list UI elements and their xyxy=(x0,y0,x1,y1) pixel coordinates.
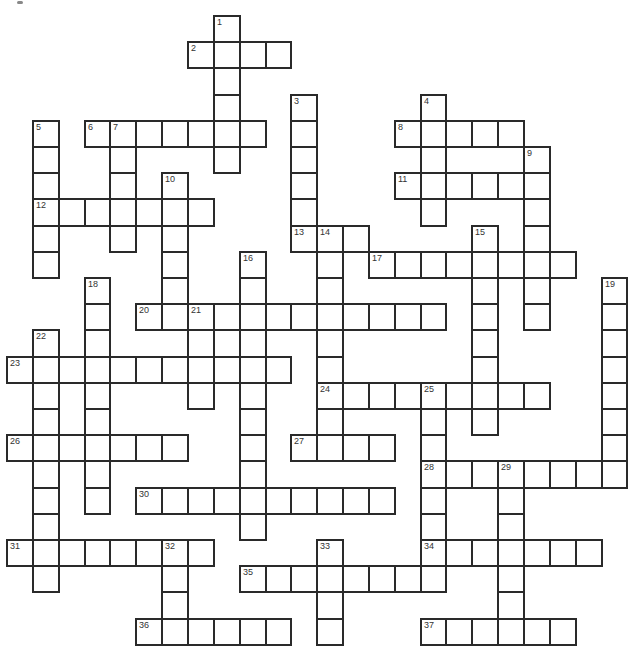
crossword-cell[interactable] xyxy=(523,172,551,200)
crossword-cell[interactable]: 23 xyxy=(6,356,34,384)
crossword-cell[interactable] xyxy=(601,329,628,358)
crossword-cell[interactable] xyxy=(342,225,370,253)
crossword-cell[interactable] xyxy=(239,329,267,358)
crossword-cell[interactable] xyxy=(445,120,473,148)
crossword-cell[interactable] xyxy=(497,251,525,279)
crossword-cell[interactable] xyxy=(213,94,241,122)
crossword-cell[interactable] xyxy=(213,487,241,515)
crossword-cell[interactable] xyxy=(497,382,525,410)
crossword-cell[interactable] xyxy=(471,120,499,148)
crossword-cell[interactable] xyxy=(187,618,215,646)
crossword-cell[interactable] xyxy=(471,329,499,358)
crossword-cell[interactable] xyxy=(265,356,292,384)
crossword-cell[interactable]: 5 xyxy=(32,120,60,148)
crossword-cell[interactable] xyxy=(523,277,551,305)
crossword-cell[interactable] xyxy=(601,303,628,331)
crossword-cell[interactable] xyxy=(32,172,60,200)
crossword-cell[interactable]: 17 xyxy=(368,251,396,279)
crossword-cell[interactable] xyxy=(213,41,241,69)
crossword-cell[interactable] xyxy=(290,198,318,227)
crossword-cell[interactable] xyxy=(84,460,111,489)
crossword-cell[interactable] xyxy=(471,251,499,279)
crossword-cell[interactable] xyxy=(265,565,292,593)
crossword-cell[interactable] xyxy=(420,565,447,593)
crossword-cell[interactable]: 22 xyxy=(32,329,60,358)
crossword-cell[interactable] xyxy=(135,539,163,567)
crossword-cell[interactable] xyxy=(549,539,577,567)
crossword-cell[interactable] xyxy=(84,408,111,436)
crossword-cell[interactable] xyxy=(523,618,551,646)
crossword-cell[interactable] xyxy=(445,251,473,279)
crossword-cell[interactable] xyxy=(523,382,551,410)
crossword-cell[interactable] xyxy=(135,198,163,227)
crossword-cell[interactable] xyxy=(109,356,137,384)
crossword-cell[interactable] xyxy=(523,198,551,227)
crossword-cell[interactable]: 26 xyxy=(6,434,34,462)
crossword-cell[interactable] xyxy=(342,565,370,593)
crossword-cell[interactable] xyxy=(368,565,396,593)
crossword-cell[interactable] xyxy=(32,408,60,436)
crossword-cell[interactable] xyxy=(420,408,447,436)
crossword-cell[interactable] xyxy=(109,225,137,253)
crossword-cell[interactable] xyxy=(420,172,447,200)
crossword-cell[interactable] xyxy=(187,382,215,410)
crossword-cell[interactable]: 16 xyxy=(239,251,267,279)
crossword-cell[interactable] xyxy=(135,120,163,148)
crossword-cell[interactable] xyxy=(394,251,422,279)
crossword-cell[interactable] xyxy=(32,356,60,384)
crossword-cell[interactable] xyxy=(84,303,111,331)
crossword-cell[interactable] xyxy=(394,565,422,593)
crossword-cell[interactable] xyxy=(265,487,292,515)
crossword-cell[interactable] xyxy=(161,225,189,253)
crossword-cell[interactable] xyxy=(239,460,267,489)
crossword-cell[interactable] xyxy=(394,382,422,410)
crossword-cell[interactable] xyxy=(58,434,86,462)
crossword-cell[interactable] xyxy=(109,434,137,462)
crossword-cell[interactable]: 8 xyxy=(394,120,422,148)
crossword-cell[interactable] xyxy=(445,460,473,489)
crossword-cell[interactable] xyxy=(290,565,318,593)
crossword-cell[interactable] xyxy=(239,120,267,148)
crossword-cell[interactable] xyxy=(58,539,86,567)
crossword-cell[interactable] xyxy=(368,487,396,515)
crossword-cell[interactable]: 32 xyxy=(161,539,189,567)
crossword-cell[interactable] xyxy=(497,120,525,148)
crossword-cell[interactable] xyxy=(368,382,396,410)
crossword-cell[interactable] xyxy=(497,565,525,593)
crossword-cell[interactable]: 19 xyxy=(601,277,628,305)
crossword-cell[interactable] xyxy=(342,487,370,515)
crossword-cell[interactable] xyxy=(316,251,344,279)
crossword-cell[interactable] xyxy=(239,41,267,69)
crossword-cell[interactable] xyxy=(290,120,318,148)
crossword-cell[interactable] xyxy=(32,382,60,410)
crossword-cell[interactable] xyxy=(187,356,215,384)
crossword-cell[interactable] xyxy=(161,434,189,462)
crossword-cell[interactable] xyxy=(187,487,215,515)
crossword-cell[interactable] xyxy=(471,408,499,436)
crossword-cell[interactable] xyxy=(161,618,189,646)
crossword-cell[interactable] xyxy=(316,434,344,462)
crossword-cell[interactable] xyxy=(239,487,267,515)
crossword-cell[interactable] xyxy=(523,539,551,567)
crossword-cell[interactable] xyxy=(549,460,577,489)
crossword-cell[interactable] xyxy=(342,382,370,410)
crossword-cell[interactable] xyxy=(471,382,499,410)
crossword-cell[interactable] xyxy=(420,146,447,174)
crossword-cell[interactable] xyxy=(84,539,111,567)
crossword-cell[interactable] xyxy=(420,251,447,279)
crossword-cell[interactable]: 10 xyxy=(161,172,189,200)
crossword-cell[interactable] xyxy=(265,41,292,69)
crossword-cell[interactable] xyxy=(161,487,189,515)
crossword-cell[interactable]: 12 xyxy=(32,198,60,227)
crossword-cell[interactable] xyxy=(213,303,241,331)
crossword-cell[interactable] xyxy=(316,303,344,331)
crossword-cell[interactable]: 15 xyxy=(471,225,499,253)
crossword-cell[interactable] xyxy=(523,460,551,489)
crossword-cell[interactable] xyxy=(109,146,137,174)
crossword-cell[interactable]: 25 xyxy=(420,382,447,410)
crossword-cell[interactable] xyxy=(32,251,60,279)
crossword-cell[interactable] xyxy=(290,146,318,174)
crossword-cell[interactable] xyxy=(549,618,577,646)
crossword-cell[interactable] xyxy=(575,539,603,567)
crossword-cell[interactable] xyxy=(497,539,525,567)
